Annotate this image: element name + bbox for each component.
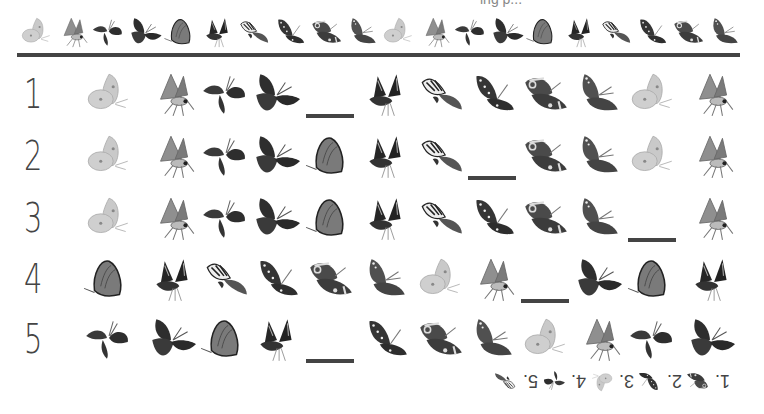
monarch-butterfly-icon bbox=[250, 68, 302, 120]
buckeye-butterfly-icon bbox=[519, 130, 571, 182]
dark-swallowtail-butterfly-icon bbox=[685, 253, 737, 305]
monarch-butterfly-icon bbox=[250, 192, 302, 244]
dark-swallowtail-butterfly-icon bbox=[146, 253, 198, 305]
painted-lady-butterfly-icon bbox=[572, 68, 624, 120]
fritillary-butterfly-icon bbox=[304, 192, 356, 244]
hairstreak-butterfly-icon bbox=[146, 68, 198, 120]
answer-label: 3. bbox=[619, 371, 634, 392]
hairstreak-butterfly-icon bbox=[685, 68, 737, 120]
tiger-swallowtail-butterfly-icon bbox=[235, 12, 271, 52]
admiral-butterfly-icon bbox=[271, 12, 307, 52]
painted-lady-butterfly-icon bbox=[466, 313, 518, 365]
dark-swallowtail-butterfly-icon bbox=[359, 130, 411, 182]
tiger-swallowtail-butterfly-icon bbox=[414, 192, 466, 244]
monarch-butterfly-icon bbox=[572, 253, 624, 305]
admiral-butterfly-icon bbox=[633, 12, 669, 52]
tiger-swallowtail-butterfly-icon bbox=[414, 130, 466, 182]
dark-swallowtail-butterfly-icon bbox=[359, 192, 411, 244]
sulphur-butterfly-icon bbox=[82, 68, 134, 120]
buckeye-butterfly-icon bbox=[670, 12, 706, 52]
skipper-butterfly-icon bbox=[199, 68, 251, 120]
sulphur-butterfly-icon bbox=[82, 192, 134, 244]
admiral-butterfly-icon bbox=[250, 253, 302, 305]
sulphur-butterfly-icon bbox=[519, 313, 571, 365]
monarch-butterfly-icon bbox=[250, 130, 302, 182]
answer-item: 1. bbox=[685, 366, 730, 396]
tiger-swallowtail-butterfly-icon bbox=[414, 68, 466, 120]
divider-rule bbox=[17, 53, 740, 57]
hairstreak-butterfly-icon bbox=[685, 192, 737, 244]
dark-swallowtail-butterfly-icon bbox=[359, 68, 411, 120]
hairstreak-butterfly-icon bbox=[685, 130, 737, 182]
sulphur-butterfly-icon bbox=[380, 12, 416, 52]
painted-lady-butterfly-icon bbox=[344, 12, 380, 52]
answer-blank[interactable] bbox=[468, 176, 516, 180]
hairstreak-butterfly-icon bbox=[54, 12, 90, 52]
hairstreak-butterfly-icon bbox=[146, 192, 198, 244]
hairstreak-butterfly-icon bbox=[466, 253, 518, 305]
skipper-butterfly-icon bbox=[199, 192, 251, 244]
buckeye-butterfly-icon bbox=[308, 12, 344, 52]
skipper-butterfly-icon bbox=[541, 368, 567, 394]
answer-label: 5. bbox=[523, 371, 538, 392]
admiral-butterfly-icon bbox=[637, 368, 663, 394]
buckeye-butterfly-icon bbox=[685, 368, 711, 394]
tiger-swallowtail-butterfly-icon bbox=[199, 253, 251, 305]
answer-blank[interactable] bbox=[628, 238, 676, 242]
admiral-butterfly-icon bbox=[466, 192, 518, 244]
answer-key: 1. 2. 3. bbox=[480, 366, 730, 396]
answer-item: 3. bbox=[589, 366, 634, 396]
sulphur-butterfly-icon bbox=[589, 368, 615, 394]
dark-swallowtail-butterfly-icon bbox=[199, 12, 235, 52]
answer-item: 2. bbox=[637, 366, 682, 396]
tiger-swallowtail-butterfly-icon bbox=[493, 368, 519, 394]
hairstreak-butterfly-icon bbox=[572, 313, 624, 365]
dark-swallowtail-butterfly-icon bbox=[561, 12, 597, 52]
painted-lady-butterfly-icon bbox=[572, 192, 624, 244]
row-number: 3 bbox=[24, 198, 41, 238]
skipper-butterfly-icon bbox=[90, 12, 126, 52]
sulphur-butterfly-icon bbox=[626, 68, 678, 120]
answer-blank[interactable] bbox=[521, 299, 569, 303]
skipper-butterfly-icon bbox=[199, 130, 251, 182]
buckeye-butterfly-icon bbox=[519, 68, 571, 120]
admiral-butterfly-icon bbox=[359, 313, 411, 365]
buckeye-butterfly-icon bbox=[304, 253, 356, 305]
painted-lady-butterfly-icon bbox=[572, 130, 624, 182]
sulphur-butterfly-icon bbox=[82, 130, 134, 182]
monarch-butterfly-icon bbox=[127, 12, 163, 52]
buckeye-butterfly-icon bbox=[414, 313, 466, 365]
sulphur-butterfly-icon bbox=[626, 130, 678, 182]
fritillary-butterfly-icon bbox=[199, 313, 251, 365]
fritillary-butterfly-icon bbox=[525, 12, 561, 52]
sulphur-butterfly-icon bbox=[18, 12, 54, 52]
skipper-butterfly-icon bbox=[82, 313, 134, 365]
sulphur-butterfly-icon bbox=[414, 253, 466, 305]
hairstreak-butterfly-icon bbox=[416, 12, 452, 52]
fritillary-butterfly-icon bbox=[626, 253, 678, 305]
dark-swallowtail-butterfly-icon bbox=[250, 313, 302, 365]
skipper-butterfly-icon bbox=[452, 12, 488, 52]
tiger-swallowtail-butterfly-icon bbox=[597, 12, 633, 52]
header-sequence bbox=[18, 12, 740, 52]
answer-label: 1. bbox=[715, 371, 730, 392]
top-instruction-text: ing p... bbox=[480, 0, 522, 7]
row-number: 5 bbox=[24, 319, 41, 359]
answer-label: 2. bbox=[667, 371, 682, 392]
answer-blank[interactable] bbox=[306, 359, 354, 363]
row-number: 4 bbox=[24, 259, 41, 299]
fritillary-butterfly-icon bbox=[304, 130, 356, 182]
answer-blank[interactable] bbox=[306, 114, 354, 118]
monarch-butterfly-icon bbox=[685, 313, 737, 365]
fritillary-butterfly-icon bbox=[163, 12, 199, 52]
skipper-butterfly-icon bbox=[626, 313, 678, 365]
monarch-butterfly-icon bbox=[489, 12, 525, 52]
buckeye-butterfly-icon bbox=[519, 192, 571, 244]
painted-lady-butterfly-icon bbox=[706, 12, 742, 52]
row-number: 2 bbox=[24, 136, 41, 176]
answer-item: 5. bbox=[493, 366, 538, 396]
painted-lady-butterfly-icon bbox=[359, 253, 411, 305]
admiral-butterfly-icon bbox=[466, 68, 518, 120]
hairstreak-butterfly-icon bbox=[146, 130, 198, 182]
answer-item: 4. bbox=[541, 366, 586, 396]
